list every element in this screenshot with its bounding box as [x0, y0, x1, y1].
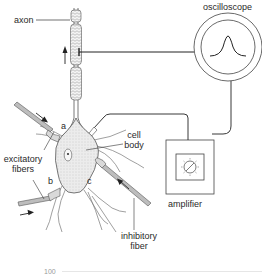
- amplifier: [166, 140, 214, 194]
- nucleus: [64, 149, 72, 161]
- oscilloscope-amplifier-wire: [212, 81, 231, 134]
- cell-body-label-line2: body: [122, 140, 146, 150]
- cropped-axis-number: 100: [44, 268, 56, 274]
- cropped-rule: [62, 271, 262, 272]
- inhibitory-label-line2: fiber: [117, 241, 161, 251]
- myelin-segment: [71, 67, 82, 100]
- amplifier-label: amplifier: [168, 199, 202, 209]
- inhibitory-label-line1: inhibitory: [117, 231, 161, 241]
- axon-label: axon: [14, 15, 34, 25]
- synapse-b-label: b: [48, 176, 53, 186]
- oscilloscope-screen: [201, 20, 255, 74]
- cell-body-label-line1: cell: [122, 130, 146, 140]
- excitatory-leader-line-b: [33, 180, 44, 199]
- excitatory-label-line2: fibers: [0, 164, 46, 174]
- recording-electrode: [79, 48, 194, 56]
- excitatory-fibers-label: excitatory fibers: [0, 154, 46, 174]
- conduction-arrow-icon: [63, 46, 68, 64]
- cell-body-label: cell body: [122, 130, 146, 150]
- synapse-a-label: a: [61, 121, 66, 131]
- synapse-c-label: c: [87, 176, 92, 186]
- synaptic-terminal-a: [46, 130, 60, 142]
- excitatory-arrow-b-icon: [20, 210, 34, 216]
- axon: [62, 8, 92, 136]
- synaptic-terminal-b: [48, 188, 60, 201]
- myelin-segment: [71, 24, 82, 65]
- oscilloscope-label: oscilloscope: [203, 2, 252, 12]
- myelin-segment: [71, 10, 81, 22]
- inhibitory-fiber-c: [95, 158, 151, 206]
- inhibitory-fiber-label: inhibitory fiber: [117, 231, 161, 251]
- excitatory-fiber-a: [14, 102, 60, 142]
- oscilloscope: [194, 13, 262, 81]
- excitatory-label-line1: excitatory: [0, 154, 46, 164]
